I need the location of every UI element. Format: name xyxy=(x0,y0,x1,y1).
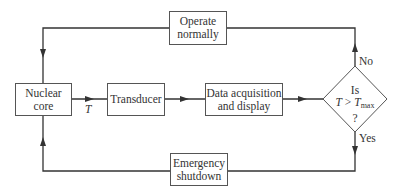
arrow-icon xyxy=(352,146,358,155)
nuclear-core-line2: core xyxy=(34,100,54,113)
arrow-icon xyxy=(180,96,189,102)
arrow-icon xyxy=(40,137,46,146)
operate-line2: normally xyxy=(177,28,219,41)
edge-operate-to-core xyxy=(43,28,169,83)
decision-condition: T > Tmax xyxy=(323,96,387,112)
node-data-acquisition: Data acquisition and display xyxy=(205,83,283,116)
no-label: No xyxy=(359,55,373,68)
arrow-icon xyxy=(298,96,307,102)
emergency-line1: Emergency xyxy=(173,157,225,170)
yes-label: Yes xyxy=(359,132,376,145)
signal-label: T xyxy=(85,103,91,116)
node-transducer: Transducer xyxy=(107,83,165,116)
arrow-icon xyxy=(40,49,46,58)
arrow-icon xyxy=(85,96,94,102)
decision-line1: Is xyxy=(323,84,387,96)
node-nuclear-core: Nuclear core xyxy=(15,83,72,116)
arrow-icon xyxy=(352,43,358,52)
node-operate-normally: Operate normally xyxy=(169,11,227,45)
daq-line1: Data acquisition xyxy=(206,87,281,100)
daq-line2: and display xyxy=(218,100,271,113)
operate-line1: Operate xyxy=(180,15,216,28)
nuclear-core-line1: Nuclear xyxy=(25,87,61,100)
node-emergency-shutdown: Emergency shutdown xyxy=(170,153,228,186)
edge-emergency-to-core xyxy=(43,116,170,171)
edge-decision-to-emergency xyxy=(228,132,355,171)
transducer-label: Transducer xyxy=(110,93,161,106)
decision-line3: ? xyxy=(323,112,387,124)
edge-decision-to-operate xyxy=(227,28,355,66)
decision-label: Is T > Tmax ? xyxy=(323,84,387,124)
emergency-line2: shutdown xyxy=(177,170,222,183)
